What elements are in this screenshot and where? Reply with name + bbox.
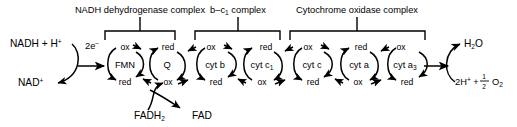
complex-title-cytochrome-oxidase: Cytochrome oxidase complex xyxy=(296,5,418,15)
link-cytb-cytc1 xyxy=(224,45,246,83)
species-h2o-pre: H xyxy=(464,38,471,49)
electron-transport-chain-svg: NADH dehydrogenase complex b–c1 complex … xyxy=(0,0,517,127)
cycle-cyt-c1-name-pre: cyt c xyxy=(251,60,270,70)
arrow-q-to-fad xyxy=(150,90,180,108)
oxygen-suffix-sub: 2 xyxy=(499,81,503,88)
link-cytc1-cytc xyxy=(275,47,293,84)
redox-cycle-cyt-c: ox red cyt c xyxy=(294,42,333,87)
cycle-cyt-a3-right-arc xyxy=(419,52,427,77)
redox-cycle-fmn: ox red FMN xyxy=(108,42,144,87)
cycle-cyt-a3-top-state: ox xyxy=(396,42,406,52)
species-nadh-sup: + xyxy=(58,38,62,45)
arrow-nadh-to-nad xyxy=(58,44,78,83)
cycle-cyt-a3-name-sub: 3 xyxy=(413,64,417,71)
oxygen-fraction-denominator: 2 xyxy=(482,83,486,90)
cycle-cyt-c-name-pre: cyt c xyxy=(302,60,321,70)
species-fadh2-sub: 2 xyxy=(161,115,165,122)
cycle-cyt-c1-name-sub: 1 xyxy=(270,64,274,71)
redox-cycle-cyt-a3: ox red cyt a3 xyxy=(388,42,428,87)
link-cyta-cyta3 xyxy=(371,47,389,84)
electron-label: 2e− xyxy=(85,40,99,51)
cycle-cyt-c-right-arc xyxy=(324,52,332,77)
oxygen-prefix: 2H xyxy=(455,77,467,87)
species-label-fadh2: FADH2 xyxy=(134,110,165,122)
cycle-cyt-c-left-arc xyxy=(294,48,302,80)
cycle-cyt-c1-right-arc xyxy=(274,52,282,80)
link-q-cytb xyxy=(178,47,196,84)
link-fmn-q xyxy=(133,45,151,83)
oxygen-suffix-group: O2 xyxy=(492,77,503,88)
cycle-cyt-b-left-arc xyxy=(197,48,205,80)
electron-label-text: 2e xyxy=(85,41,95,51)
cycle-cyt-b-top-state: ox xyxy=(206,42,216,52)
cycle-cyt-a-left-arc xyxy=(341,48,349,80)
species-nad-text: NAD xyxy=(18,77,40,88)
redox-cycle-q: red ox Q xyxy=(150,42,186,87)
cycle-cyt-c1-top-state: red xyxy=(260,42,273,52)
cycle-fmn-top-state: ox xyxy=(120,42,130,52)
electron-label-sup: − xyxy=(95,40,99,47)
cycle-q-name-pre: Q xyxy=(163,60,170,70)
cycle-cyt-a3-bottom-state: red xyxy=(401,77,414,87)
complex-title-b-c1: b–c1 complex xyxy=(210,5,266,16)
species-nad-sup: + xyxy=(40,77,44,84)
oxygen-prefix-group: 2H+ + xyxy=(455,76,481,87)
cycle-fmn-name: FMN xyxy=(115,60,135,70)
redox-cycle-cyt-c1: red ox cyt c1 xyxy=(244,42,283,87)
species-fadh2-text: FADH xyxy=(134,110,161,121)
oxygen-plus: + xyxy=(471,77,482,87)
cycle-fmn-bottom-state: red xyxy=(119,77,132,87)
redox-cycle-cyt-a: red ox cyt a xyxy=(341,42,379,87)
cycle-fmn-name-pre: FMN xyxy=(115,60,135,70)
species-label-fad: FAD xyxy=(192,110,212,121)
cycle-cyt-b-right-arc xyxy=(228,52,236,77)
cycle-q-name: Q xyxy=(163,60,170,70)
species-label-oxygen: 2H+ + 1 2 O2 xyxy=(455,73,503,90)
species-h2o-post: O xyxy=(475,38,483,49)
complex-title-b-c1-pre: b–c xyxy=(210,5,225,15)
etc-diagram-figure: NADH dehydrogenase complex b–c1 complex … xyxy=(0,0,517,127)
cycle-cyt-a-top-state: red xyxy=(355,42,368,52)
cycle-q-bottom-state: ox xyxy=(163,77,173,87)
cycle-cyt-c-top-state: ox xyxy=(303,42,313,52)
complex-title-nadh-dehydrogenase: NADH dehydrogenase complex xyxy=(75,5,206,15)
bracket-cytochrome-oxidase xyxy=(290,17,425,40)
species-nadh-text: NADH + H xyxy=(10,38,58,49)
bracket-nadh-dehydrogenase xyxy=(105,17,175,40)
cycle-cyt-a-bottom-state: ox xyxy=(353,77,363,87)
species-label-nad: NAD+ xyxy=(18,77,44,88)
cycle-q-top-state: red xyxy=(162,42,175,52)
cycle-cyt-a-right-arc xyxy=(370,52,378,80)
bracket-b-c1 xyxy=(195,17,280,40)
cycle-cyt-b-name: cyt b xyxy=(205,60,225,70)
cycle-cyt-a-name-pre: cyt a xyxy=(349,60,369,70)
cycle-cyt-a-name: cyt a xyxy=(349,60,369,70)
species-label-nadh: NADH + H+ xyxy=(10,38,62,49)
cycle-q-right-arc xyxy=(177,52,185,80)
cycle-fmn-right-arc xyxy=(136,52,144,77)
cycle-cyt-c1-name: cyt c1 xyxy=(251,60,274,71)
cycle-q-left-arc xyxy=(150,48,158,80)
oxygen-suffix-pre: O xyxy=(492,77,499,87)
cycle-cyt-c1-bottom-state: ox xyxy=(257,77,267,87)
species-label-h2o: H2O xyxy=(464,38,483,50)
cycle-cyt-a3-name: cyt a3 xyxy=(393,60,417,71)
cycle-cyt-c-bottom-state: red xyxy=(307,77,320,87)
complex-title-b-c1-post: complex xyxy=(229,5,267,15)
cycle-cyt-c-name: cyt c xyxy=(302,60,321,70)
cycle-cyt-b-name-pre: cyt b xyxy=(205,60,225,70)
cycle-cyt-a3-name-pre: cyt a xyxy=(393,60,413,70)
oxygen-fraction-numerator: 1 xyxy=(482,73,486,80)
cycle-cyt-b-bottom-state: red xyxy=(210,77,223,87)
